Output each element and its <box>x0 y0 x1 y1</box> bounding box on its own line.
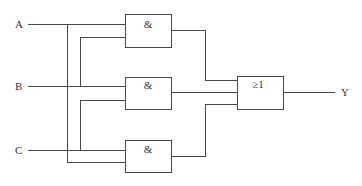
logic-circuit-diagram: A B C & & & ≥1 Y <box>0 0 362 186</box>
or-gate: ≥1 <box>238 77 284 110</box>
and-gate-1-symbol: & <box>144 18 153 30</box>
input-label-c: C <box>15 144 22 156</box>
input-wires <box>28 25 125 163</box>
wire-c-branch <box>81 101 126 151</box>
and-gate-1: & <box>126 15 172 48</box>
intermediate-wires <box>172 31 238 157</box>
wire-b-branch <box>81 38 126 87</box>
and-gate-3: & <box>126 141 172 173</box>
wire-and1-out <box>172 31 238 81</box>
input-label-b: B <box>15 80 22 92</box>
and-gate-3-symbol: & <box>144 143 153 155</box>
and-gate-2: & <box>126 78 172 110</box>
input-label-a: A <box>15 18 23 30</box>
or-gate-symbol: ≥1 <box>252 78 264 90</box>
wire-and3-out <box>172 105 238 157</box>
and-gate-2-symbol: & <box>144 79 153 91</box>
output-label-y: Y <box>341 86 349 98</box>
wire-a-branch <box>68 25 126 163</box>
